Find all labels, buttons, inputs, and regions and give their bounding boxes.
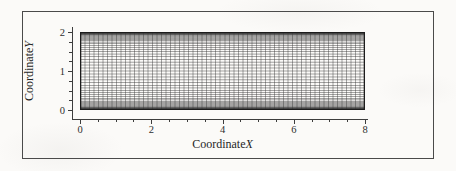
x-axis-tick-label: 0 [77, 124, 82, 135]
x-axis-tick-label: 2 [149, 124, 154, 135]
figure-page: 02468012 CoordinateX CoordinateY [0, 0, 456, 171]
x-axis-minor-tick [187, 119, 188, 122]
y-axis-line [72, 27, 73, 119]
mesh-plot-area [80, 32, 365, 110]
x-axis-minor-tick [329, 119, 330, 122]
y-axis-minor-tick [69, 42, 72, 43]
x-axis-minor-tick [133, 119, 134, 122]
y-axis-minor-tick [69, 52, 72, 53]
x-axis-tick-label: 6 [291, 124, 296, 135]
x-axis-minor-tick [116, 119, 117, 122]
y-axis-title-text: Coordinate [22, 48, 36, 101]
y-axis-minor-tick [69, 61, 72, 62]
x-axis-minor-tick [169, 119, 170, 122]
y-axis-tick-label: 2 [60, 27, 65, 38]
x-axis-major-tick [294, 119, 295, 124]
x-axis-minor-tick [240, 119, 241, 122]
x-axis-title-variable: X [245, 137, 252, 151]
y-axis-major-tick [68, 110, 73, 111]
x-axis-title: CoordinateX [80, 137, 365, 152]
x-axis-minor-tick [98, 119, 99, 122]
computational-mesh [80, 32, 365, 110]
y-axis-minor-tick [69, 100, 72, 101]
x-axis-major-tick [365, 119, 366, 124]
x-axis-title-text: Coordinate [192, 137, 245, 151]
y-axis-title: CoordinateY [22, 41, 37, 101]
x-axis-major-tick [223, 119, 224, 124]
y-axis-tick-label: 0 [60, 105, 65, 116]
x-axis-minor-tick [205, 119, 206, 122]
x-axis-tick-label: 4 [220, 124, 225, 135]
y-axis-major-tick [68, 71, 73, 72]
x-axis-tick-label: 8 [362, 124, 367, 135]
x-axis-major-tick [80, 119, 81, 124]
y-axis-major-tick [68, 32, 73, 33]
x-axis-minor-tick [258, 119, 259, 122]
x-axis-minor-tick [347, 119, 348, 122]
y-axis-minor-tick [69, 81, 72, 82]
y-axis-title-variable: Y [22, 41, 36, 48]
y-axis-minor-tick [69, 91, 72, 92]
x-axis-minor-tick [276, 119, 277, 122]
y-axis-tick-label: 1 [60, 66, 65, 77]
x-axis-minor-tick [312, 119, 313, 122]
x-axis-major-tick [151, 119, 152, 124]
